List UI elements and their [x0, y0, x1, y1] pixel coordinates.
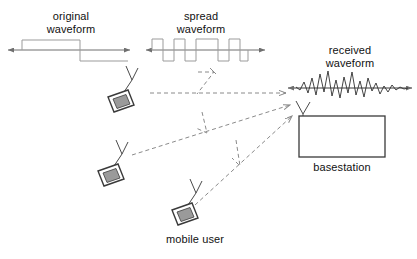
diagram-vector-layer	[0, 0, 417, 259]
uplink-zigzag-1	[197, 72, 214, 94]
label-received-waveform: received waveform	[302, 44, 398, 70]
original-waveform-plot	[8, 40, 130, 61]
received-waveform-plot	[288, 71, 412, 98]
received-waveform-trace	[296, 71, 408, 98]
basestation-box	[299, 116, 385, 157]
mobile-phone-3	[172, 179, 202, 225]
label-basestation: basestation	[299, 161, 385, 174]
spread-waveform-plot	[146, 39, 265, 61]
antenna-icon	[126, 66, 138, 80]
label-original-waveform: original waveform	[23, 10, 119, 36]
mobile-phone-1	[108, 66, 138, 112]
uplink-link-mobile-2	[132, 105, 290, 155]
diagram-canvas: original waveform spread waveform receiv…	[0, 0, 417, 259]
uplink-arrowmark-2	[196, 112, 207, 133]
uplink-arrowmark-3	[232, 140, 240, 166]
uplink-dashed-links	[132, 68, 292, 205]
label-mobile-user: mobile user	[140, 233, 250, 246]
antenna-icon	[190, 179, 202, 193]
antenna-icon	[116, 140, 128, 154]
label-spread-waveform: spread waveform	[153, 10, 249, 36]
basestation-antenna-icon	[296, 101, 310, 114]
mobile-phone-2	[98, 140, 128, 186]
basestation-node	[296, 101, 385, 157]
uplink-link-mobile-3	[195, 116, 292, 205]
